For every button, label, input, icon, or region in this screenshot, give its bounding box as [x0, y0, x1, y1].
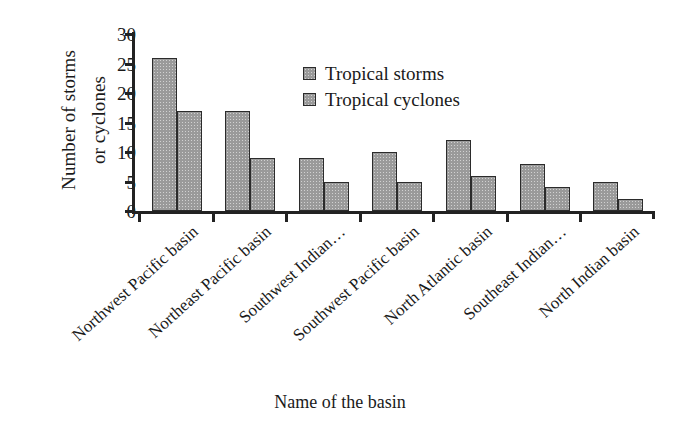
y-tick-mark — [125, 151, 133, 154]
x-axis-category-labels: Northwest Pacific basinNortheast Pacific… — [0, 0, 680, 430]
y-tick-mark — [125, 33, 133, 36]
y-tick-mark — [125, 181, 133, 184]
y-tick-mark — [125, 122, 133, 125]
y-tick-mark — [125, 63, 133, 66]
y-tick-mark — [125, 210, 133, 213]
x-axis-title: Name of the basin — [0, 392, 680, 413]
x-tick-mark — [506, 214, 509, 222]
x-tick-mark — [212, 214, 215, 222]
x-tick-mark — [359, 214, 362, 222]
x-tick-mark — [579, 214, 582, 222]
y-tick-mark — [125, 92, 133, 95]
x-tick-mark — [432, 214, 435, 222]
x-tick-mark — [138, 214, 141, 222]
x-tick-mark — [285, 214, 288, 222]
bar-chart: Number of storms or cyclones 05101520253… — [0, 0, 680, 430]
